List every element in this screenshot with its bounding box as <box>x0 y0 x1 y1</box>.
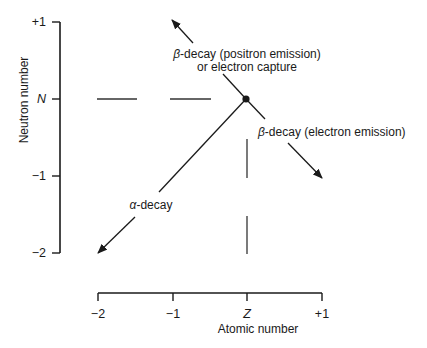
x-axis-label: Atomic number <box>218 322 299 336</box>
alpha-label: α-decay <box>130 198 173 212</box>
y-axis-label: Neutron number <box>17 57 31 144</box>
x-tick-minus2: −2 <box>91 307 105 321</box>
x-tick-plus1: +1 <box>315 307 329 321</box>
beta-plus-label-line2: or electron capture <box>197 60 297 74</box>
beta-plus-label: β-decay (positron emission) <box>172 47 321 61</box>
y-tick-minus2: −2 <box>32 246 46 260</box>
x-axis: −2 −1 Z +1 Atomic number <box>91 293 329 336</box>
decay-diagram: +1 N −1 −2 Neutron number −2 −1 Z +1 Ato… <box>0 0 427 348</box>
alpha-arrow <box>98 99 246 253</box>
x-tick-Z: Z <box>242 307 251 321</box>
y-tick-minus1: −1 <box>32 169 46 183</box>
x-tick-minus1: −1 <box>166 307 180 321</box>
y-tick-plus1: +1 <box>32 15 46 29</box>
y-tick-N: N <box>37 92 47 106</box>
y-axis: +1 N −1 −2 Neutron number <box>17 15 60 260</box>
beta-minus-label: β-decay (electron emission) <box>257 125 406 139</box>
